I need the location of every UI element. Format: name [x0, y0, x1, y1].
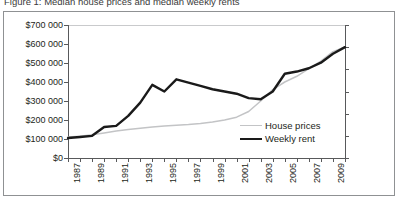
- x-axis-tick-label: 1995: [168, 163, 178, 183]
- x-axis-tick-label: 1999: [216, 163, 226, 183]
- x-axis-tick: [80, 158, 81, 162]
- legend-swatch-house-prices-icon: [240, 125, 262, 126]
- x-axis-tick: [345, 158, 346, 162]
- x-axis-tick: [273, 158, 274, 162]
- legend-label-house-prices: House prices: [265, 119, 320, 132]
- x-axis-tick: [309, 158, 310, 162]
- y-axis-right-tick: [345, 25, 349, 26]
- x-axis-tick-label: 1997: [192, 163, 202, 183]
- y-axis-left-tick-label: $400 000: [25, 77, 63, 87]
- x-axis-tick: [104, 158, 105, 162]
- x-axis-tick: [188, 158, 189, 162]
- y-axis-left-tick-label: $100 000: [25, 134, 63, 144]
- x-axis-tick-label: 2009: [336, 163, 346, 183]
- x-axis-tick: [200, 158, 201, 162]
- legend-item-weekly-rent: Weekly rent: [240, 132, 320, 145]
- x-axis-tick-label: 2003: [264, 163, 274, 183]
- x-axis-tick: [68, 158, 69, 162]
- y-axis-right-tick: [345, 114, 349, 115]
- x-axis-tick: [249, 158, 250, 162]
- x-axis: [68, 158, 345, 159]
- x-axis-tick-label: 1991: [120, 163, 130, 183]
- y-axis-right-tick: [345, 69, 349, 70]
- x-axis-tick: [92, 158, 93, 162]
- x-axis-tick: [285, 158, 286, 162]
- x-axis-tick: [225, 158, 226, 162]
- legend-item-house-prices: House prices: [240, 119, 320, 132]
- x-axis-tick-label: 1989: [96, 163, 106, 183]
- figure-container: Figure 1: Median house prices and median…: [0, 0, 399, 201]
- legend-label-weekly-rent: Weekly rent: [265, 132, 315, 145]
- x-axis-tick: [116, 158, 117, 162]
- x-axis-tick: [152, 158, 153, 162]
- y-axis-left-tick-label: $0: [53, 153, 63, 163]
- x-axis-tick: [176, 158, 177, 162]
- x-axis-tick-label: 2007: [312, 163, 322, 183]
- y-axis-left-tick-label: $600 000: [25, 39, 63, 49]
- y-axis-left-tick-label: $200 000: [25, 115, 63, 125]
- x-axis-tick: [261, 158, 262, 162]
- x-axis-tick: [213, 158, 214, 162]
- figure-caption: Figure 1: Median house prices and median…: [4, 0, 396, 8]
- x-axis-tick: [321, 158, 322, 162]
- chart-legend: House prices Weekly rent: [240, 119, 320, 145]
- y-axis-left-tick-label: $500 000: [25, 58, 63, 68]
- x-axis-tick-label: 1987: [72, 163, 82, 183]
- y-axis-right-tick: [345, 92, 349, 93]
- x-axis-tick: [164, 158, 165, 162]
- x-axis-tick-label: 1993: [144, 163, 154, 183]
- x-axis-tick: [237, 158, 238, 162]
- x-axis-tick: [333, 158, 334, 162]
- x-axis-tick-label: 2005: [288, 163, 298, 183]
- y-axis-left-tick-label: $700 000: [25, 20, 63, 30]
- y-axis-right-tick: [345, 136, 349, 137]
- x-axis-tick: [297, 158, 298, 162]
- x-axis-tick-label: 2001: [240, 163, 250, 183]
- x-axis-tick: [140, 158, 141, 162]
- x-axis-tick: [128, 158, 129, 162]
- legend-swatch-weekly-rent-icon: [240, 138, 262, 140]
- y-axis-left-tick-label: $300 000: [25, 96, 63, 106]
